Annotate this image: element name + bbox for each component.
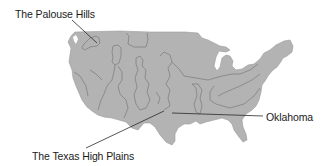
callout-label-texas-high-plains: The Texas High Plains [32,150,134,162]
callout-label-oklahoma: Oklahoma [266,111,313,123]
us-map-graphic [0,0,330,166]
us-map-figure: The Palouse Hills Oklahoma The Texas Hig… [0,0,330,166]
us-landmass [68,31,293,145]
callout-label-palouse-hills: The Palouse Hills [15,8,95,20]
